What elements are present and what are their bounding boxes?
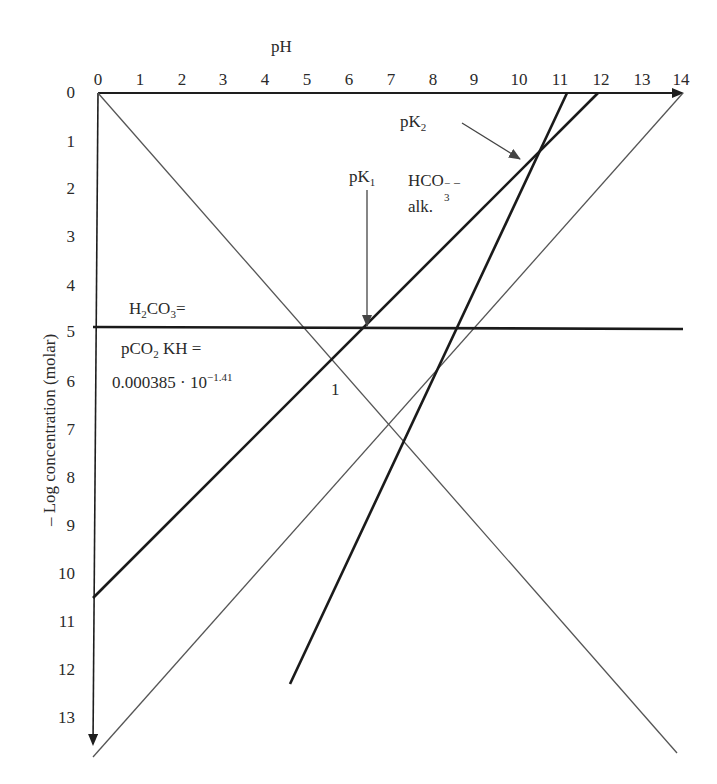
x-tick: 1 (136, 71, 145, 88)
hco3-label: HCO−3– (408, 172, 460, 189)
hco3-subscript: 3 (444, 192, 450, 203)
pk1-text: pK (349, 167, 370, 186)
conc-exponent: −1.41 (207, 371, 232, 383)
pk1-label: pK1 (349, 168, 375, 188)
alk-label: alk. (408, 198, 433, 215)
pco2-kh: KH = (159, 339, 202, 358)
y-tick: 11 (45, 613, 75, 630)
x-tick: 6 (345, 71, 354, 88)
x-tick: 2 (178, 71, 187, 88)
hco3-tail: – (454, 175, 460, 189)
pco2-label: pCO2 KH = (121, 340, 201, 360)
pk2-text: pK (400, 112, 421, 131)
y-tick: 4 (45, 277, 75, 294)
x-tick: 9 (470, 71, 479, 88)
point-1-label: 1 (331, 381, 340, 398)
h2co3-label: H2CO3= (129, 300, 186, 320)
x-tick: 8 (429, 71, 438, 88)
pk1-subscript: 1 (370, 176, 376, 188)
hco3-superscript: − (444, 178, 450, 189)
x-tick: 12 (593, 71, 610, 88)
oh-minus-line (93, 93, 683, 757)
h2co3-eq: = (176, 299, 186, 318)
pco2-text: pCO (121, 339, 153, 358)
x-tick: 7 (387, 71, 396, 88)
h2co3-line (93, 327, 683, 329)
y-axis-title: – Log concentration (molar) (40, 330, 60, 530)
x-tick: 4 (261, 71, 270, 88)
hco3-text: HCO (408, 171, 444, 190)
conc-text: 0.000385 · 10 (112, 373, 207, 392)
x-tick: 11 (552, 71, 568, 88)
h2co3-co: CO (147, 299, 171, 318)
y-tick: 2 (45, 180, 75, 197)
x-tick: 5 (303, 71, 312, 88)
pk2-arrow (462, 123, 520, 159)
y-tick: 3 (45, 228, 75, 245)
pk2-label: pK2 (400, 113, 426, 133)
x-tick: 3 (219, 71, 228, 88)
y-tick: 10 (45, 565, 75, 582)
x-tick: 13 (634, 71, 651, 88)
pk2-subscript: 2 (421, 121, 427, 133)
y-tick: 0 (45, 84, 75, 101)
x-axis-title: pH (271, 38, 292, 55)
y-tick: 13 (45, 709, 75, 726)
x-tick: 0 (94, 71, 103, 88)
y-tick: 1 (45, 133, 75, 150)
y-axis (93, 93, 98, 744)
concentration-label: 0.000385 · 10−1.41 (112, 372, 232, 391)
h2co3-h: H (129, 299, 141, 318)
chart-canvas (0, 0, 717, 784)
x-tick: 10 (511, 71, 528, 88)
y-tick: 12 (45, 661, 75, 678)
x-tick: 14 (673, 71, 690, 88)
